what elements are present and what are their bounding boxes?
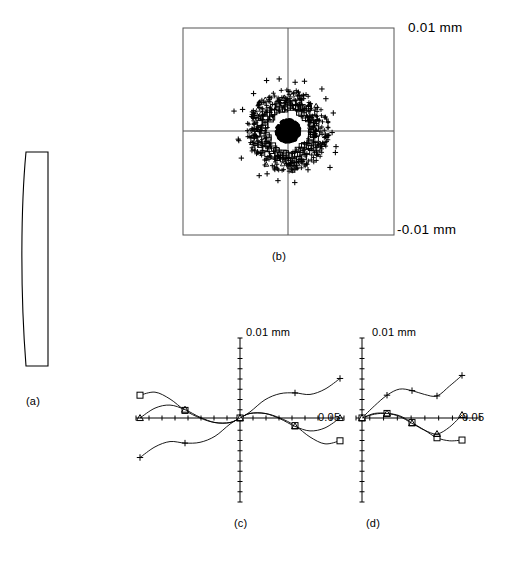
- ray-fan-d-plot: [330, 318, 506, 538]
- ray-fan-d-y-label: 0.01 mm: [372, 326, 416, 338]
- optics-figure: (a) 0.01 mm -0.01 mm (b) 0.01 mm 0.05 (c…: [0, 0, 506, 563]
- lens-outline: [22, 152, 48, 366]
- spot-diagram-plot: [176, 18, 506, 278]
- caption-a: (a): [26, 395, 40, 407]
- ray-fan-d-curves: [359, 372, 466, 443]
- ray-fan-d-x-label: 0.05: [462, 411, 484, 423]
- lens-element-drawing: [0, 130, 110, 420]
- panel-d-ray-fan-sagittal: [330, 318, 506, 538]
- panel-c-ray-fan-tangential: [125, 318, 340, 538]
- caption-c: (c): [234, 517, 247, 529]
- panel-a-lens-element: [0, 130, 110, 420]
- spot-scale-bottom-label: -0.01 mm: [397, 222, 456, 237]
- ray-fan-c-plot: [125, 318, 340, 538]
- ray-fan-c-y-label: 0.01 mm: [246, 326, 290, 338]
- caption-d: (d): [366, 517, 380, 529]
- spot-scale-top-label: 0.01 mm: [408, 20, 463, 35]
- panel-b-spot-diagram: [176, 18, 506, 278]
- caption-b: (b): [272, 250, 286, 262]
